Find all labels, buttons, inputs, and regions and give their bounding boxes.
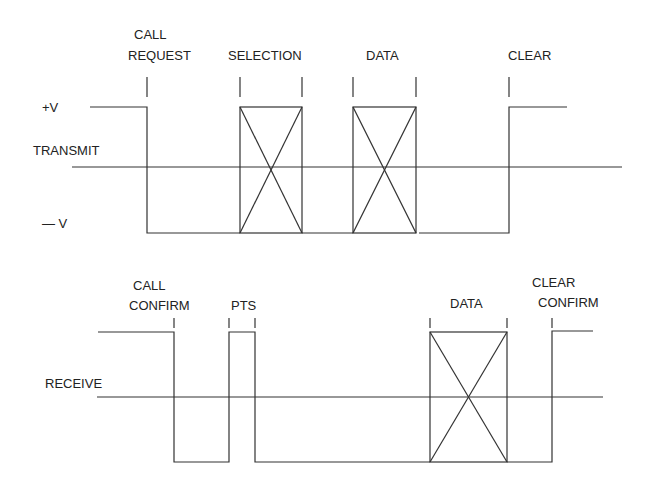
clear-confirm-label-2: CONFIRM xyxy=(538,295,599,310)
receive-label: RECEIVE xyxy=(45,376,102,391)
level-high-label: +V xyxy=(42,100,59,115)
clear-label: CLEAR xyxy=(508,48,551,63)
call-request-label-1: CALL xyxy=(134,27,167,42)
call-confirm-label-1: CALL xyxy=(133,278,166,293)
timing-diagram: +V TRANSMIT — V CALL REQUEST SELECTION D… xyxy=(0,0,647,490)
clear-confirm-label-1: CLEAR xyxy=(532,275,575,290)
call-request-label-2: REQUEST xyxy=(128,48,191,63)
call-confirm-label-2: CONFIRM xyxy=(129,298,190,313)
transmit-data-label: DATA xyxy=(366,48,399,63)
selection-label: SELECTION xyxy=(228,48,302,63)
receive-data-label: DATA xyxy=(450,296,483,311)
transmit-label: TRANSMIT xyxy=(33,143,100,158)
transmit-signal-call-request xyxy=(90,107,240,233)
level-low-label: — V xyxy=(42,216,68,231)
pts-label: PTS xyxy=(231,298,257,313)
transmit-signal-clear xyxy=(419,107,567,233)
timing-diagram-svg: +V TRANSMIT — V CALL REQUEST SELECTION D… xyxy=(0,0,647,490)
